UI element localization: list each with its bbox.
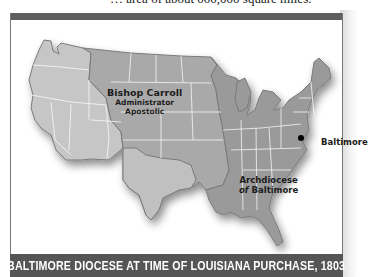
label-bishop-carroll: Bishop Carroll Administrator Apostolic bbox=[107, 88, 182, 116]
baltimore-marker-icon bbox=[298, 135, 304, 141]
label-baltimore-city: Baltimore bbox=[321, 138, 368, 148]
map-caption-text: BALTIMORE DIOCESE AT TIME OF LOUISIANA P… bbox=[8, 258, 346, 273]
label-archdiocese: Archdiocese of Baltimore bbox=[239, 176, 298, 196]
map-figure: Bishop Carroll Administrator Apostolic A… bbox=[10, 13, 343, 277]
label-archdiocese-line2: of Baltimore bbox=[239, 186, 298, 196]
label-archdiocese-of: of bbox=[239, 185, 249, 195]
label-archdiocese-baltimore: Baltimore bbox=[249, 185, 299, 195]
us-map bbox=[11, 20, 344, 254]
map-caption-bar: BALTIMORE DIOCESE AT TIME OF LOUISIANA P… bbox=[10, 254, 343, 277]
cropped-body-text: … area of about 000,000 square miles. bbox=[110, 0, 311, 7]
label-carroll-title2: Apostolic bbox=[107, 108, 182, 117]
figure-top-bar bbox=[11, 13, 342, 20]
